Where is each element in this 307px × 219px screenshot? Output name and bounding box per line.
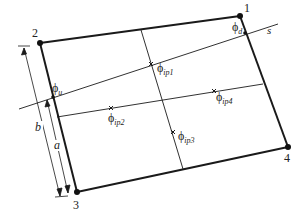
dimension-b-label: b	[35, 120, 41, 134]
phi-ip3-label: ϕip3	[178, 129, 195, 145]
phi-u-point	[51, 95, 55, 99]
node-markers	[37, 13, 291, 195]
phi-u-label: ϕu	[52, 81, 62, 97]
arrowhead-icon	[57, 188, 62, 196]
dimension-a-label: a	[54, 138, 60, 152]
node-4-dot	[285, 144, 291, 150]
phi-ip4-label: ϕip4	[216, 90, 233, 106]
arrowhead-icon	[45, 100, 50, 107]
edge-3-2	[40, 43, 77, 192]
arrowhead-icon	[65, 185, 70, 193]
node-2-dot	[37, 40, 43, 46]
element-outline	[40, 16, 288, 192]
edge-1-4	[240, 16, 288, 147]
phi-ip2-label: ϕip2	[108, 111, 125, 127]
element-diagram: 1 2 3 4 s ϕu ϕd ϕip1 ϕip2 ϕip3 ϕip4 b a	[0, 0, 307, 219]
dimension-b-tick-bottom	[55, 196, 68, 197]
edge-4-3	[77, 147, 288, 192]
arrowhead-icon	[22, 48, 27, 55]
phi-ip1-label: ϕip1	[157, 61, 174, 77]
node-3-dot	[74, 189, 80, 195]
streamline-s-label: s	[267, 24, 271, 36]
node-3-label: 3	[73, 198, 79, 212]
mid-vertical-line	[141, 30, 183, 169]
phi-d-point	[243, 31, 247, 35]
edge-2-1	[40, 16, 240, 43]
node-4-label: 4	[284, 151, 290, 165]
node-1-label: 1	[244, 1, 250, 15]
node-2-label: 2	[32, 26, 38, 40]
dimension-lines	[18, 46, 70, 197]
node-1-dot	[237, 13, 243, 19]
